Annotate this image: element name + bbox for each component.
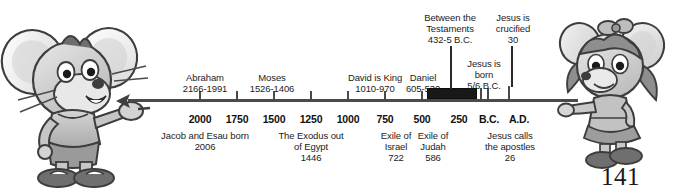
label-jesus-calls-the-apostles-text: Jesus calls the apostles 26 (485, 130, 535, 163)
axis-label-1500: 1500 (263, 113, 286, 125)
axis-label-750: 750 (377, 113, 394, 125)
label-exile-of-israel: Exile of Israel 722 (381, 130, 411, 164)
label-daniel-text: Daniel 605-530 (406, 72, 440, 94)
timeline-diagram: Abraham 2166-1991 Moses 1526-1406 David … (0, 0, 673, 195)
label-the-exodus-out-of-egypt: The Exodus out of Egypt 1446 (278, 130, 343, 164)
axis-label-1000: 1000 (337, 113, 360, 125)
label-jacob-and-esau-born: Jacob and Esau born 2006 (161, 130, 249, 152)
label-abraham: Abraham 2166-1991 (183, 72, 228, 94)
label-daniel: Daniel 605-530 (406, 72, 440, 94)
axis-label-250: 250 (451, 113, 468, 125)
label-jesus-is-born: Jesus is born 5/6 B.C. (467, 58, 501, 92)
label-exile-of-judah: Exile of Judah 586 (418, 130, 448, 164)
label-jesus-calls-the-apostles: Jesus calls the apostles 26 (485, 130, 535, 164)
leader-line-between-the-testaments (450, 46, 452, 89)
label-exile-of-judah-text: Exile of Judah 586 (418, 130, 448, 163)
label-jesus-is-crucified: Jesus is crucified 30 (496, 12, 530, 46)
label-david-is-king-text: David is King 1010-970 (348, 72, 402, 94)
label-exile-of-israel-text: Exile of Israel 722 (381, 130, 411, 163)
axis-tick-1250 (310, 91, 312, 100)
axis-tick-1750 (236, 91, 238, 100)
label-jesus-is-born-text: Jesus is born 5/6 B.C. (467, 58, 501, 91)
axis-tick-ad-30 (508, 86, 510, 100)
page-number: 141 (601, 163, 640, 191)
label-david-is-king: David is King 1010-970 (348, 72, 402, 94)
label-jesus-is-crucified-text: Jesus is crucified 30 (496, 12, 530, 45)
label-jacob-and-esau-born-text: Jacob and Esau born 2006 (161, 130, 249, 152)
axis-label-ad: A.D. (509, 113, 529, 125)
axis-label-2000: 2000 (189, 113, 212, 125)
label-the-exodus-out-of-egypt-text: The Exodus out of Egypt 1446 (278, 130, 343, 163)
leader-line-jesus-is-crucified (511, 46, 513, 87)
label-moses: Moses 1526-1406 (250, 72, 295, 94)
axis-label-500: 500 (414, 113, 431, 125)
axis-label-1250: 1250 (300, 113, 323, 125)
label-between-the-testaments: Between the Testaments 432-5 B.C. (424, 12, 476, 46)
label-between-the-testaments-text: Between the Testaments 432-5 B.C. (424, 12, 476, 45)
label-abraham-text: Abraham 2166-1991 (183, 72, 228, 94)
axis-label-bc: B.C. (479, 113, 499, 125)
axis-line (128, 99, 578, 102)
axis-label-1750: 1750 (226, 113, 249, 125)
label-moses-text: Moses 1526-1406 (250, 72, 295, 94)
timeline-axis (0, 0, 673, 195)
